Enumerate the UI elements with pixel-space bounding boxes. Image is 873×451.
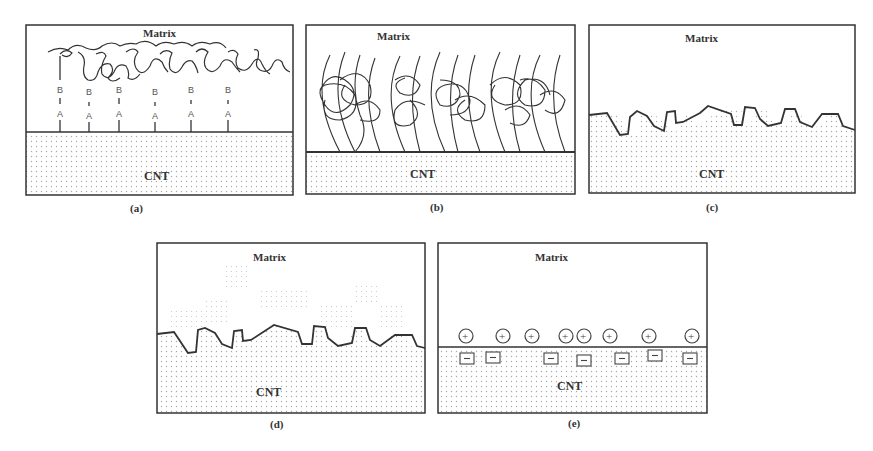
panel-c: Matrix CNT (c): [589, 25, 855, 214]
cnt-label: CNT: [410, 167, 435, 181]
negative-charge-icon: [486, 352, 500, 363]
linker-labels: B A B A B A B A B A B A: [57, 85, 231, 121]
positive-charge-icon: +: [459, 329, 473, 343]
panel-caption: (a): [130, 202, 143, 215]
cnt-region: [306, 152, 575, 194]
panel-e: Matrix CNT + + + + + + + + (e): [438, 243, 707, 430]
positive-charges: + + + + + + + +: [459, 329, 699, 343]
panel-a: Matrix CNT B A B A B A B A B A B A (a): [26, 25, 293, 215]
matrix-diffusion-dots: [168, 265, 405, 330]
svg-text:+: +: [606, 330, 612, 342]
cnt-label: CNT: [699, 167, 724, 181]
label-a: A: [225, 109, 231, 119]
label-a: A: [57, 109, 63, 119]
positive-charge-icon: +: [685, 329, 699, 343]
cnt-label: CNT: [256, 385, 281, 399]
negative-charge-icon: [577, 355, 591, 366]
negative-charge-icon: [648, 350, 662, 361]
svg-text:+: +: [499, 330, 505, 342]
label-a: A: [152, 111, 158, 121]
negative-charge-icon: [460, 353, 474, 364]
label-b: B: [152, 87, 158, 97]
matrix-label: Matrix: [143, 27, 176, 39]
negative-charge-icon: [544, 353, 558, 364]
svg-text:+: +: [580, 330, 586, 342]
label-b: B: [188, 85, 194, 95]
label-a: A: [86, 111, 92, 121]
positive-charge-icon: +: [559, 329, 573, 343]
svg-text:+: +: [688, 330, 694, 342]
matrix-label: Matrix: [685, 32, 718, 44]
label-b: B: [225, 85, 231, 95]
positive-charge-icon: +: [577, 329, 591, 343]
wrapped-polymer-chains: [320, 52, 565, 152]
polymer-chains: [48, 41, 290, 81]
positive-charge-icon: +: [525, 329, 539, 343]
matrix-label: Matrix: [535, 251, 568, 263]
panel-caption: (d): [270, 418, 284, 431]
positive-charge-icon: +: [603, 329, 617, 343]
label-b: B: [57, 85, 63, 95]
label-a: A: [188, 109, 194, 119]
panel-d: Matrix CNT (d): [157, 243, 425, 431]
matrix-label: Matrix: [377, 30, 410, 42]
svg-text:+: +: [645, 330, 651, 342]
panel-caption: (e): [568, 417, 581, 430]
panel-caption: (c): [706, 201, 719, 214]
label-a: A: [116, 109, 122, 119]
svg-text:+: +: [528, 330, 534, 342]
positive-charge-icon: +: [496, 329, 510, 343]
matrix-label: Matrix: [253, 251, 286, 263]
cnt-label: CNT: [557, 379, 582, 393]
negative-charge-icon: [683, 353, 697, 364]
label-b: B: [86, 87, 92, 97]
panel-caption: (b): [430, 201, 444, 214]
label-b: B: [116, 85, 122, 95]
cnt-region: [26, 132, 293, 195]
svg-text:+: +: [562, 330, 568, 342]
cnt-label: CNT: [144, 169, 169, 183]
figure-canvas: Matrix CNT B A B A B A B A B A B A (a): [0, 0, 873, 451]
positive-charge-icon: +: [642, 329, 656, 343]
panel-b: Matrix CNT (b): [306, 25, 575, 214]
svg-text:+: +: [462, 330, 468, 342]
negative-charge-icon: [615, 353, 629, 364]
